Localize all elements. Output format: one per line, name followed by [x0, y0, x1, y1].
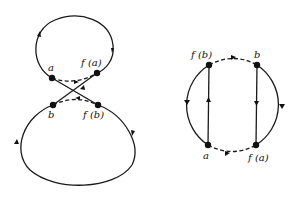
right-arc [256, 65, 278, 145]
point-b [254, 62, 260, 68]
figure-canvas: a f (a) b f (b) f (b) b a f (a) [0, 0, 294, 198]
right-diagram: f (b) b a f (a) [184, 49, 285, 163]
label-b: b [254, 49, 260, 60]
point-a [205, 142, 211, 148]
lower-loop [21, 105, 135, 185]
dashed-a-to-fa [52, 73, 97, 81]
label-a: a [203, 150, 209, 161]
point-a [49, 75, 55, 81]
point-fa [253, 142, 259, 148]
label-fa: f (a) [247, 152, 269, 163]
label-fb: f (b) [190, 49, 212, 60]
point-fa [94, 70, 100, 76]
arrow-icon [184, 100, 190, 105]
point-fb [95, 102, 101, 108]
arrow-icon [75, 96, 80, 100]
label-b: b [48, 109, 54, 120]
arrow-icon [254, 101, 259, 106]
dashed-bottom-arc [208, 145, 256, 152]
left-diagram: a f (a) b f (b) [14, 16, 135, 185]
chord-a-fb [208, 65, 209, 145]
arrow-icon [231, 55, 236, 60]
label-a: a [48, 62, 54, 73]
arrow-icon [206, 97, 211, 102]
label-fa: f (a) [80, 57, 102, 68]
arrow-icon [279, 104, 285, 109]
point-fb [206, 62, 212, 68]
arrow-icon [14, 139, 19, 144]
dashed-top-arc [209, 59, 257, 66]
label-fb: f (b) [82, 109, 104, 120]
left-arc [187, 65, 209, 145]
point-b [50, 102, 56, 108]
arrow-icon [80, 85, 85, 90]
